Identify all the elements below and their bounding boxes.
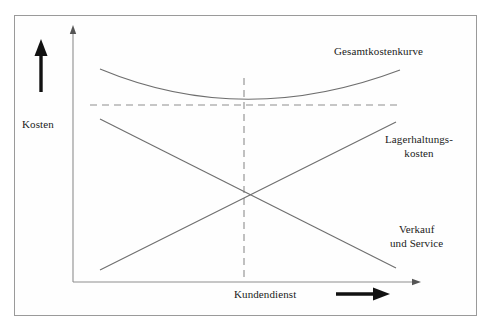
series-label-sales-service-line2: und Service — [390, 236, 443, 250]
series-label-inventory-cost: Lagerhaltungs- kosten — [385, 132, 453, 160]
x-axis-label: Kundendienst — [234, 287, 296, 301]
series-label-inventory-cost-line2: kosten — [385, 146, 453, 160]
up-arrow-icon — [35, 39, 48, 92]
series-total-cost-curve — [100, 69, 400, 99]
series-sales-service-line — [100, 119, 396, 268]
series-inventory-cost-line — [100, 122, 396, 270]
x-axis — [73, 279, 421, 285]
right-arrow-icon — [336, 288, 390, 301]
series-label-inventory-cost-line1: Lagerhaltungs- — [385, 132, 453, 146]
y-axis — [70, 25, 76, 282]
series-label-sales-service-line1: Verkauf — [390, 222, 443, 236]
figure-container: Gesamtkostenkurve Lagerhaltungs- kosten … — [0, 0, 491, 331]
series-label-sales-service: Verkauf und Service — [390, 222, 443, 250]
series-label-total-cost-curve: Gesamtkostenkurve — [334, 44, 423, 58]
y-axis-label: Kosten — [22, 117, 54, 131]
